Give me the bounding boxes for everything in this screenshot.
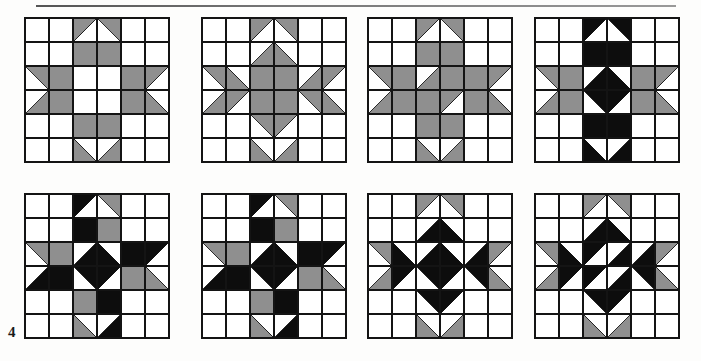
- quilt-block-canvas: [534, 17, 680, 163]
- page-number: 4: [8, 324, 16, 341]
- quilt-pattern-page: 4: [0, 0, 701, 361]
- quilt-block-6: [201, 193, 347, 339]
- quilt-block-canvas: [367, 193, 513, 339]
- quilt-block-1: [24, 17, 170, 163]
- quilt-block-5: [24, 193, 170, 339]
- quilt-block-canvas: [367, 17, 513, 163]
- quilt-block-canvas: [534, 193, 680, 339]
- quilt-block-3: [367, 17, 513, 163]
- quilt-block-canvas: [201, 193, 347, 339]
- quilt-block-2: [201, 17, 347, 163]
- quilt-block-canvas: [24, 17, 170, 163]
- quilt-block-7: [367, 193, 513, 339]
- quilt-block-canvas: [24, 193, 170, 339]
- quilt-block-canvas: [201, 17, 347, 163]
- top-rule-divider: [36, 5, 676, 7]
- quilt-block-8: [534, 193, 680, 339]
- quilt-block-4: [534, 17, 680, 163]
